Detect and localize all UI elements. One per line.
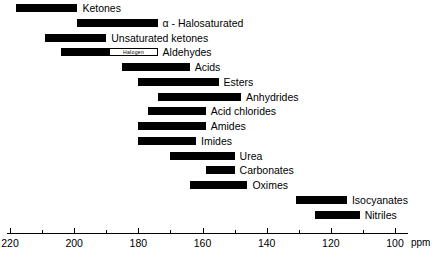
axis-tick-label: 220 <box>0 237 30 249</box>
axis-tick-label: 180 <box>118 237 158 249</box>
axis-tick-major <box>10 228 11 233</box>
axis-tick-minor <box>299 230 300 233</box>
axis-tick-major <box>395 228 396 233</box>
axis-tick-label: 120 <box>311 237 351 249</box>
axis-tick-major <box>138 228 139 233</box>
axis-unit-label: ppm <box>411 237 430 249</box>
axis-tick-minor <box>42 230 43 233</box>
axis-tick-minor <box>363 230 364 233</box>
axis-tick-minor <box>106 230 107 233</box>
axis-tick-label: 140 <box>247 237 287 249</box>
ppm-axis: 220200180160140120100 ppm <box>0 0 438 258</box>
axis-tick-major <box>331 228 332 233</box>
axis-line <box>7 233 408 234</box>
axis-tick-label: 160 <box>183 237 223 249</box>
axis-tick-major <box>74 228 75 233</box>
chemical-shift-range-chart: Ketonesα - HalosaturatedUnsaturated keto… <box>0 0 438 258</box>
axis-tick-label: 100 <box>375 237 415 249</box>
axis-tick-minor <box>235 230 236 233</box>
axis-tick-minor <box>170 230 171 233</box>
axis-tick-major <box>203 228 204 233</box>
axis-tick-major <box>267 228 268 233</box>
axis-tick-label: 200 <box>54 237 94 249</box>
